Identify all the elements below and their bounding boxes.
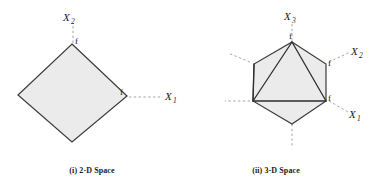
axis-label-x2-subscript-3d: 2 xyxy=(359,51,363,60)
vertex-label-f-upper-right-3d: f xyxy=(328,58,331,68)
diamond-polygon-2d xyxy=(18,44,127,142)
axis-label-x2-letter: X xyxy=(62,11,71,23)
panel-3d-group: f f f X 3 X 2 X 1 xyxy=(225,10,363,146)
diagram-svg: f f X 2 X 1 f xyxy=(0,0,368,192)
axis-label-x1-subscript-2d: 1 xyxy=(173,96,177,105)
caption-3d-space: (ii) 3-D Space xyxy=(184,166,368,175)
axis-label-x2-letter-3d: X xyxy=(350,45,359,57)
panel-2d-group: f f X 2 X 1 xyxy=(18,11,177,142)
axis-line-x1-3d xyxy=(329,101,348,112)
vertex-label-f-right-2d: f xyxy=(120,87,123,97)
axis-label-x3-letter: X xyxy=(283,10,292,22)
axis-label-x2-subscript: 2 xyxy=(71,17,75,26)
vertex-label-f-lower-right-3d: f xyxy=(328,93,331,103)
axis-label-x3-subscript: 3 xyxy=(291,16,296,25)
axis-line-hidden-upper-left xyxy=(228,53,250,62)
figure-container: f f X 2 X 1 f xyxy=(0,0,368,192)
axis-label-x1-letter-2d: X xyxy=(164,90,173,102)
caption-2d-space: (i) 2-D Space xyxy=(0,166,184,175)
axis-label-x1-subscript-3d: 1 xyxy=(357,114,361,123)
vertex-label-f-top-2d: f xyxy=(75,36,78,46)
axis-label-x1-letter-3d: X xyxy=(348,108,357,120)
axis-line-x2-3d xyxy=(329,52,350,62)
vertex-label-f-top-3d: f xyxy=(289,31,292,41)
